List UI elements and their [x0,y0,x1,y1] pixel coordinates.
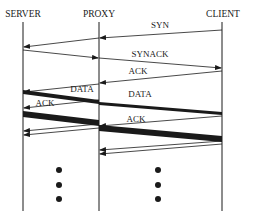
synack-label: SYNACK [131,49,169,59]
continuation-dots-left [56,167,62,202]
ack-arrow-proxy-server-4 [24,128,99,135]
ack-label-1: ACK [128,66,148,76]
data-arrow-proxy-client-2 [99,125,222,142]
ack-arrow-proxy-server-3 [24,124,99,131]
syn-arrow-client-proxy [100,30,222,38]
participant-client-label: CLIENT [206,9,240,19]
ack-arrow-client-proxy-1 [100,71,222,83]
ack-arrow-client-proxy-2 [100,116,222,126]
continuation-dots-right [155,167,161,202]
synack-arrow-server-proxy [23,50,98,58]
participant-proxy-label: PROXY [83,9,115,19]
data-arrow-proxy-client-1 [99,102,222,115]
participant-server-label: SERVER [5,9,41,19]
ack-label-client-proxy: ACK [126,114,146,124]
data-arrow-server-proxy-2 [23,111,99,126]
syn-label: SYN [151,20,170,30]
data-label-server-proxy: DATA [70,84,94,94]
synack-arrow-proxy-client [99,58,221,68]
syn-arrow-proxy-server [24,38,99,47]
ack-label-proxy-server: ACK [35,98,55,108]
data-label-proxy-client: DATA [128,89,152,99]
sequence-diagram: SERVER PROXY CLIENT SYN SYNACK ACK DATA … [0,0,256,223]
